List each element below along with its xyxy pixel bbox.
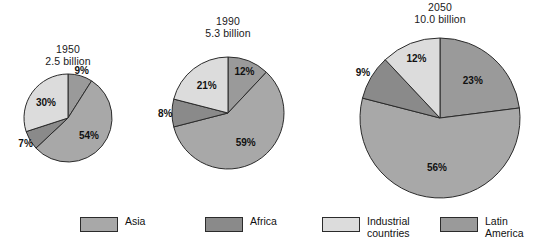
legend-swatch (205, 217, 243, 232)
pie-1990: 12%59%8%21% (146, 31, 310, 195)
pie-1950: 9%54%7%30% (0, 48, 138, 188)
legend-item-asia[interactable]: Asia (80, 216, 145, 232)
pie-2050: 23%56%9%12% (334, 12, 534, 224)
legend-item-industrial-countries[interactable]: Industrial countries (322, 216, 410, 239)
pie-slice-label: 23% (463, 75, 483, 86)
legend-label: Asia (125, 216, 145, 228)
pie-1990-svg: 12%59%8%21% (146, 31, 310, 195)
legend-swatch (322, 217, 360, 232)
chart-legend: AsiaAfricaIndustrial countriesLatin Amer… (80, 216, 500, 246)
pie-slice-label: 21% (197, 80, 217, 91)
pie-chart-figure: 9%54%7%30%12%59%8%21%23%56%9%12% AsiaAfr… (0, 0, 534, 250)
pie-slice-label: 56% (427, 162, 447, 173)
pie-2050-svg: 23%56%9%12% (334, 12, 534, 224)
legend-item-africa[interactable]: Africa (205, 216, 277, 232)
pie-1950-svg: 9%54%7%30% (0, 48, 138, 188)
legend-label: Industrial countries (367, 216, 410, 239)
pie-slice-label: 8% (158, 108, 173, 119)
pie-title-year: 1950 (0, 44, 138, 56)
pie-1950-title: 19502.5 billion (0, 44, 138, 67)
pie-title-total: 10.0 billion (370, 14, 510, 26)
pie-slice-label: 59% (236, 137, 256, 148)
legend-item-latin-america[interactable]: Latin America (440, 216, 524, 239)
pie-title-year: 2050 (370, 2, 510, 14)
legend-swatch (440, 217, 478, 232)
legend-swatch (80, 217, 118, 232)
pie-title-total: 5.3 billion (158, 28, 298, 40)
pie-slice-label: 12% (234, 66, 254, 77)
pie-slice-label: 7% (18, 138, 33, 149)
pie-2050-title: 205010.0 billion (370, 2, 510, 25)
pie-1990-title: 19905.3 billion (158, 16, 298, 39)
pie-title-total: 2.5 billion (0, 56, 138, 68)
pie-title-year: 1990 (158, 16, 298, 28)
legend-label: Latin America (485, 216, 524, 239)
pie-slice-label: 12% (406, 53, 426, 64)
pie-slice-label: 9% (356, 67, 371, 78)
pie-slice-label: 54% (79, 130, 99, 141)
legend-label: Africa (250, 216, 277, 228)
pie-slice-label: 30% (36, 97, 56, 108)
